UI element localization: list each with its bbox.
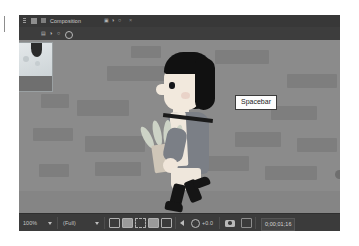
toolbar-divider	[175, 217, 176, 229]
thumbnail-dot	[35, 61, 40, 66]
panel-tab-bar: Composition ▣ ◑ ○ ×	[19, 15, 340, 27]
composition-navigator-bar: ▤ ◑ ○	[19, 27, 340, 40]
thumbnail-dot	[23, 56, 29, 62]
wall-brick	[39, 164, 69, 177]
panel-tab-title[interactable]: Composition	[50, 17, 81, 25]
wall-brick	[41, 94, 69, 108]
tab-glyph-1-icon: ▣	[104, 17, 109, 23]
wall-brick	[287, 74, 337, 88]
toolbar-divider	[57, 217, 58, 229]
navigator-glyph-1-icon[interactable]: ▤	[41, 30, 46, 36]
toolbar-divider	[219, 217, 220, 229]
after-effects-composition-window: Composition ▣ ◑ ○ × ▤ ◑ ○	[19, 15, 340, 231]
composition-panel-icon	[31, 18, 37, 24]
zoom-dropdown-chevron-icon[interactable]	[48, 214, 52, 231]
toolbar-divider	[104, 217, 105, 229]
character-illustration	[147, 52, 227, 212]
transparency-grid-icon[interactable]	[122, 214, 133, 231]
mask-path-icon[interactable]	[135, 214, 146, 231]
exposure-value-text: +0.0	[202, 220, 213, 226]
navigator-circle-icon[interactable]	[65, 31, 73, 39]
current-timecode-value: 0;00;01;16	[265, 221, 291, 227]
title-action-safe-icon[interactable]	[148, 214, 159, 231]
layer-thumbnail-preview[interactable]	[19, 42, 53, 92]
viewer-edge-circle-artifact	[335, 170, 340, 179]
resolution-dropdown[interactable]: (Full)	[63, 214, 76, 231]
tab-glyph-2-icon: ◑	[111, 17, 114, 23]
character-eye	[169, 82, 175, 89]
tab-glyph-3-icon: ○	[118, 17, 121, 23]
snapshot-camera-icon[interactable]	[225, 214, 235, 231]
composition-viewer[interactable]: Spacebar	[19, 40, 340, 213]
character-nose	[156, 84, 167, 95]
character-hair-side	[195, 58, 215, 110]
character-cheek	[181, 92, 190, 99]
thumbnail-ground	[19, 76, 52, 91]
navigator-glyph-3-icon[interactable]: ○	[57, 30, 60, 36]
toolbar-divider	[255, 217, 256, 229]
panel-tab-title-text: Composition	[50, 18, 81, 24]
wall-brick	[77, 100, 129, 116]
spacebar-tooltip-label: Spacebar	[241, 98, 271, 105]
composition-toolbar: 100% (Full) +0.0	[19, 213, 340, 231]
exposure-gear-icon[interactable]	[191, 214, 200, 231]
wall-brick	[95, 162, 141, 176]
tab-close-icon[interactable]: ×	[129, 17, 132, 23]
wall-brick	[235, 132, 281, 147]
fx-icon	[41, 18, 46, 23]
wall-brick	[85, 136, 145, 152]
spacebar-tooltip: Spacebar	[235, 95, 277, 110]
wall-brick	[297, 138, 337, 152]
wall-brick	[271, 106, 317, 120]
reset-exposure-icon[interactable]	[180, 214, 184, 231]
navigator-glyph-2-icon[interactable]: ◑	[49, 30, 52, 36]
channel-preview-icon[interactable]	[161, 214, 172, 231]
resolution-dropdown-chevron-icon[interactable]	[95, 214, 99, 231]
wall-brick	[33, 128, 73, 141]
thumbnail-shape	[31, 42, 42, 57]
region-of-interest-icon[interactable]	[109, 214, 120, 231]
page-root: Composition ▣ ◑ ○ × ▤ ◑ ○	[0, 0, 359, 246]
wall-brick	[265, 166, 317, 180]
exposure-value[interactable]: +0.0	[202, 214, 213, 231]
current-timecode-field[interactable]: 0;00;01;16	[261, 218, 295, 231]
zoom-level-dropdown[interactable]: 100%	[23, 214, 37, 231]
show-snapshot-icon[interactable]	[241, 214, 252, 231]
resolution-value: (Full)	[63, 220, 76, 226]
panel-menu-icon[interactable]	[23, 18, 28, 24]
zoom-level-value: 100%	[23, 220, 37, 226]
page-edge-mark	[4, 16, 5, 32]
